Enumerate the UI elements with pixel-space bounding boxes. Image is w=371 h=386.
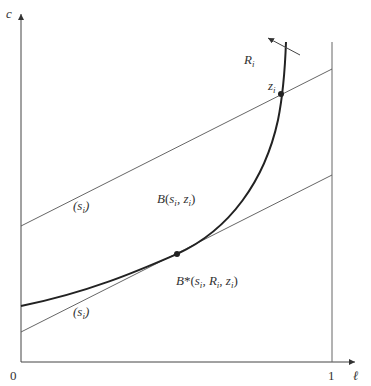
curve-label: Ri [243,52,255,69]
diagram: c ℓ 0 1 Ri zi (si) (si) B(si, zi) B*(si,… [0,0,371,386]
point-z-label: zi [267,78,276,95]
y-axis-label: c [6,6,12,21]
lower-line-label: (si) [73,304,89,321]
x-tick-label: 1 [328,368,335,383]
upper-line-label: (si) [73,198,89,215]
origin-label: 0 [10,368,17,383]
point-z [278,91,284,97]
x-axis-label: ℓ [353,368,359,383]
budget-opt-label: B*(si, Ri, zi) [176,273,238,290]
tangent-point [174,251,180,257]
indifference-curve [21,42,286,306]
budget-label: B(si, zi) [157,191,195,208]
direction-arrow [268,38,300,55]
